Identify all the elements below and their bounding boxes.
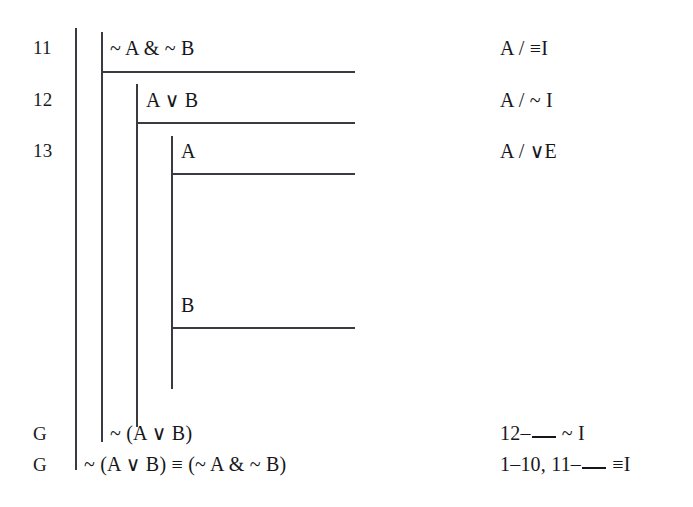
goal-label-1: G	[33, 424, 47, 443]
justification-line-11: A / ≡I	[500, 38, 548, 58]
justification-line-12: A / ~ I	[500, 90, 553, 110]
goal-justification-2-blank[interactable]	[582, 467, 606, 469]
goal-formula-2: ~ (A ∨ B) ≡ (~ A & ~ B)	[84, 454, 286, 474]
goal-justification-1-blank[interactable]	[532, 436, 556, 438]
goal-formula-1: ~ (A ∨ B)	[110, 423, 192, 443]
line-number-11: 11	[33, 38, 52, 57]
line-number-12: 12	[33, 90, 53, 109]
outer-proof-scope-bar	[75, 28, 77, 470]
goal-justification-2: 1–10, 11– ≡I	[500, 454, 631, 474]
goal-justification-1-rule: ~ I	[562, 422, 585, 444]
goal-justification-1: 12– ~ I	[500, 423, 585, 443]
assumption-rule-line-11	[101, 71, 355, 73]
formula-line-11: ~ A & ~ B	[110, 38, 195, 58]
line-number-13: 13	[33, 141, 53, 160]
goal-justification-1-prefix: 12–	[500, 422, 531, 444]
goal-justification-2-prefix: 1–10, 11–	[500, 453, 581, 475]
assumption-rule-case-b	[171, 327, 355, 329]
negation-intro-scope-bar	[101, 32, 103, 442]
justification-line-13: A / ∨E	[500, 141, 557, 161]
disjunction-elim-scope-bar	[136, 84, 138, 427]
case-b-scope-bar	[171, 291, 173, 389]
goal-justification-2-rule: ≡I	[612, 453, 630, 475]
goal-label-2: G	[33, 455, 47, 474]
assumption-rule-line-13	[171, 173, 355, 175]
assumption-rule-line-12	[136, 122, 355, 124]
formula-case-b: B	[181, 295, 195, 315]
formula-line-13: A	[181, 141, 196, 161]
formula-line-12: A ∨ B	[146, 90, 198, 110]
proof-page: 11 ~ A & ~ B A / ≡I 12 A ∨ B A / ~ I 13 …	[0, 0, 693, 507]
